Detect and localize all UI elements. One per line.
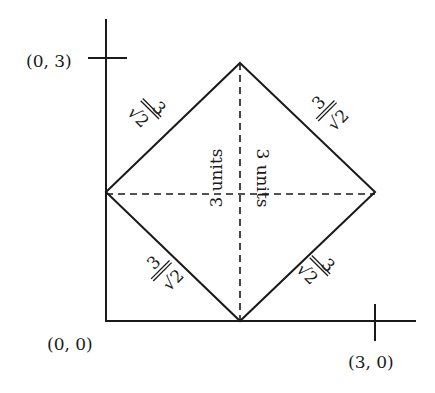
svg-text:3: 3 bbox=[143, 251, 165, 273]
svg-text:√2: √2 bbox=[293, 259, 322, 288]
side-label-lower-left: 3 √2 bbox=[137, 246, 188, 297]
side-label-upper-left: 3 √2 bbox=[124, 87, 172, 135]
y-tick-label: (0, 3) bbox=[26, 51, 72, 71]
x-tick-label: (3, 0) bbox=[348, 352, 394, 372]
vertical-diagonal-label: 3 units bbox=[206, 148, 226, 207]
side-label-lower-right: 3 √2 bbox=[293, 244, 341, 292]
svg-text:3: 3 bbox=[308, 91, 330, 113]
horizontal-diagonal-label: 3 units bbox=[253, 148, 273, 207]
svg-text:√2: √2 bbox=[124, 102, 153, 131]
origin-label: (0, 0) bbox=[47, 334, 93, 354]
svg-text:√2: √2 bbox=[158, 265, 187, 294]
svg-text:√2: √2 bbox=[323, 105, 352, 134]
square-diagram: (0, 3) (0, 0) (3, 0) 3 units 3 units 3 √… bbox=[0, 0, 435, 393]
